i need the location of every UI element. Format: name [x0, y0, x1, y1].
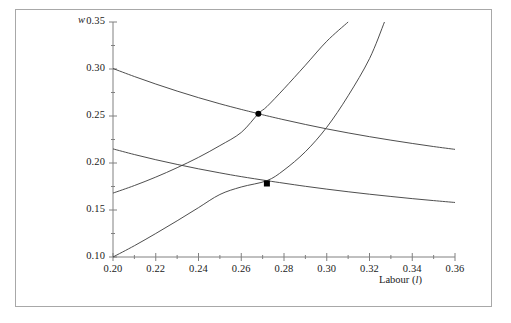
- x-tick-label: 0.22: [136, 263, 176, 274]
- y-tick-label: 0.20: [71, 156, 105, 167]
- y-tick-label: 0.35: [71, 15, 105, 26]
- x-tick-label: 0.20: [93, 263, 133, 274]
- figure-root: 0.350.300.250.200.150.10 0.200.220.240.2…: [0, 0, 511, 323]
- y-tick-label: 0.30: [71, 62, 105, 73]
- curve-2: [113, 22, 348, 193]
- x-axis-title-text: Labour (: [379, 274, 415, 285]
- x-axis-title-close: ): [418, 274, 422, 285]
- x-tick-label: 0.36: [435, 263, 475, 274]
- y-tick-label: 0.25: [71, 109, 105, 120]
- marker-equilibrium-upper: [255, 111, 261, 117]
- x-tick-label: 0.34: [392, 263, 432, 274]
- curve-0: [113, 69, 455, 150]
- x-tick-label: 0.28: [264, 263, 304, 274]
- marker-group: [255, 111, 270, 187]
- marker-equilibrium-lower: [264, 180, 270, 186]
- curve-1: [113, 149, 455, 203]
- x-tick-label: 0.32: [350, 263, 390, 274]
- axis-lines: [113, 22, 455, 257]
- y-axis-title: w: [78, 14, 85, 25]
- y-tick-label: 0.10: [71, 250, 105, 261]
- curve-group: [113, 22, 455, 257]
- y-axis-title-symbol: w: [78, 14, 85, 25]
- x-axis-title: Labour (l): [379, 274, 422, 285]
- tick-marks: [109, 22, 455, 261]
- curve-3: [113, 22, 384, 257]
- x-tick-label: 0.30: [307, 263, 347, 274]
- y-tick-label: 0.15: [71, 203, 105, 214]
- x-tick-label: 0.26: [221, 263, 261, 274]
- x-tick-label: 0.24: [179, 263, 219, 274]
